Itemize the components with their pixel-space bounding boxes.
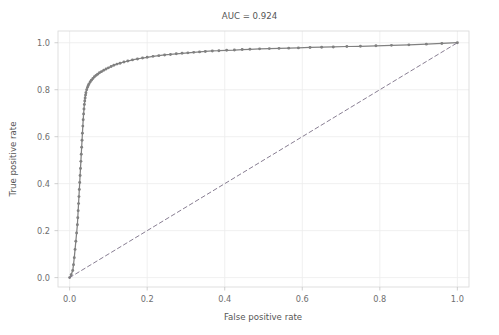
data-point (297, 46, 300, 49)
roc-plot-svg: AUC = 0.924 0.00.20.40.60.81.0 0.00.20.4… (0, 0, 499, 335)
data-point (141, 57, 144, 60)
data-point (82, 112, 85, 115)
data-point (425, 43, 428, 46)
roc-chart-figure: AUC = 0.924 0.00.20.40.60.81.0 0.00.20.4… (0, 0, 499, 335)
y-axis-title: True positive rate (8, 122, 18, 198)
data-point (440, 42, 443, 45)
data-point (81, 139, 84, 142)
data-point (76, 223, 79, 226)
data-point (258, 47, 261, 50)
data-point (126, 60, 129, 63)
data-point (78, 188, 81, 191)
y-tick-label-2: 0.4 (37, 179, 50, 189)
data-point (136, 58, 139, 61)
data-point (81, 125, 84, 128)
y-tick-label-4: 0.8 (37, 85, 50, 95)
data-point (79, 160, 82, 163)
chart-title: AUC = 0.924 (222, 11, 277, 21)
data-point (77, 195, 80, 198)
data-point (169, 53, 172, 56)
data-point (84, 96, 87, 99)
data-point (131, 58, 134, 61)
y-tick-label-5: 1.0 (37, 38, 50, 48)
data-point (72, 263, 75, 266)
data-point (71, 269, 74, 272)
data-point (79, 174, 82, 177)
x-tick-label-5: 1.0 (451, 294, 464, 304)
data-point (107, 66, 110, 69)
data-point (152, 55, 155, 58)
data-point (146, 56, 149, 59)
data-point (75, 232, 78, 235)
data-point (119, 62, 122, 65)
x-tick-label-2: 0.4 (218, 294, 231, 304)
y-tick-label-3: 0.6 (37, 132, 50, 142)
data-point (204, 50, 207, 53)
data-point (80, 146, 83, 149)
data-point (248, 48, 251, 51)
data-point (287, 47, 290, 50)
data-point (83, 108, 86, 111)
data-point (211, 50, 214, 53)
data-point (115, 63, 118, 66)
x-tick-label-4: 0.8 (373, 294, 386, 304)
data-point (192, 51, 195, 54)
data-point (74, 248, 77, 251)
data-point (225, 49, 228, 52)
x-tick-label-3: 0.6 (296, 294, 309, 304)
data-point (157, 54, 160, 57)
data-point (83, 103, 86, 106)
data-point (79, 167, 82, 170)
x-axis-title: False positive rate (224, 312, 302, 322)
data-point (186, 51, 189, 54)
data-point (78, 181, 81, 184)
data-point (73, 256, 76, 259)
data-point (110, 65, 113, 68)
data-point (374, 44, 377, 47)
data-point (181, 52, 184, 55)
data-point (81, 132, 84, 135)
data-point (332, 46, 335, 49)
data-point (320, 46, 323, 49)
data-point (268, 47, 271, 50)
data-point (163, 54, 166, 57)
data-point (198, 50, 201, 53)
data-point (80, 153, 83, 156)
x-tick-label-1: 0.2 (141, 294, 154, 304)
data-point (309, 46, 312, 49)
data-point (122, 61, 125, 64)
data-point (83, 100, 86, 103)
data-point (233, 49, 236, 52)
data-point (278, 47, 281, 50)
y-tick-label-0: 0.0 (37, 273, 50, 283)
data-point (82, 118, 85, 121)
data-point (77, 202, 80, 205)
y-tick-label-1: 0.2 (37, 226, 50, 236)
data-point (77, 209, 80, 212)
data-point (407, 43, 410, 46)
data-point (345, 45, 348, 48)
data-point (74, 240, 77, 243)
data-point (76, 216, 79, 219)
data-point (112, 64, 115, 67)
data-point (359, 45, 362, 48)
data-point (217, 49, 220, 52)
data-point (84, 91, 87, 94)
data-point (241, 48, 244, 51)
data-point (175, 52, 178, 55)
data-point (390, 44, 393, 47)
x-tick-label-0: 0.0 (63, 294, 76, 304)
